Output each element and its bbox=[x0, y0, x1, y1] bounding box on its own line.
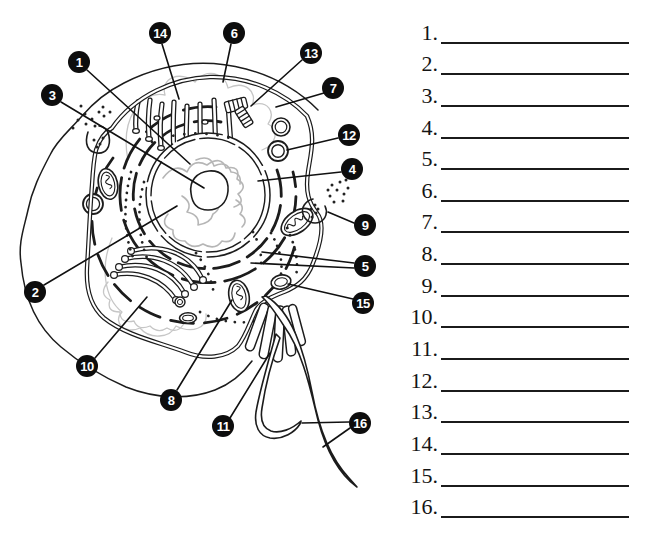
answer-row-16: 16. bbox=[394, 487, 653, 519]
callout-badge-11: 11 bbox=[212, 415, 234, 437]
callout-number: 5 bbox=[362, 260, 369, 273]
callout-badge-8: 8 bbox=[160, 389, 182, 411]
callout-badge-5: 5 bbox=[354, 255, 376, 277]
callout-number: 15 bbox=[356, 297, 369, 310]
answer-blank-line[interactable] bbox=[441, 295, 629, 297]
answer-row-10: 10. bbox=[394, 297, 653, 329]
answer-blank-line[interactable] bbox=[441, 485, 629, 487]
answer-blank-line[interactable] bbox=[441, 200, 629, 202]
callout-badge-1: 1 bbox=[68, 51, 90, 73]
callout-badge-13: 13 bbox=[300, 42, 322, 64]
callout-badge-6: 6 bbox=[223, 22, 245, 44]
answer-row-7: 7. bbox=[394, 202, 653, 234]
answer-row-8: 8. bbox=[394, 233, 653, 265]
answer-number: 10. bbox=[394, 306, 438, 328]
answer-number: 15. bbox=[394, 465, 438, 487]
callout-badge-4: 4 bbox=[341, 158, 363, 180]
callout-badge-3: 3 bbox=[41, 84, 63, 106]
answer-blank-line[interactable] bbox=[441, 421, 629, 423]
callout-number: 3 bbox=[49, 89, 56, 102]
answer-number: 7. bbox=[394, 211, 438, 233]
callout-number: 8 bbox=[168, 394, 175, 407]
answer-row-1: 1. bbox=[394, 12, 653, 44]
answer-blank-line[interactable] bbox=[441, 263, 629, 265]
answer-row-5: 5. bbox=[394, 139, 653, 171]
answer-number: 16. bbox=[394, 496, 438, 518]
answer-blank-line[interactable] bbox=[441, 390, 629, 392]
callout-number: 9 bbox=[362, 219, 369, 232]
answer-number: 8. bbox=[394, 243, 438, 265]
callout-number: 4 bbox=[349, 163, 356, 176]
answer-number: 1. bbox=[394, 22, 438, 44]
answer-number: 14. bbox=[394, 433, 438, 455]
callout-badge-7: 7 bbox=[322, 77, 344, 99]
callout-number: 10 bbox=[80, 360, 93, 373]
callout-badge-16: 16 bbox=[349, 412, 371, 434]
answer-row-13: 13. bbox=[394, 392, 653, 424]
answer-blank-line[interactable] bbox=[441, 358, 629, 360]
answer-blank-line[interactable] bbox=[441, 326, 629, 328]
answer-number: 12. bbox=[394, 370, 438, 392]
callout-number: 6 bbox=[231, 27, 238, 40]
answer-number: 4. bbox=[394, 117, 438, 139]
callout-number: 2 bbox=[32, 286, 39, 299]
answer-blank-line[interactable] bbox=[441, 168, 629, 170]
callout-badge-10: 10 bbox=[76, 355, 98, 377]
answer-blank-line[interactable] bbox=[441, 105, 629, 107]
callout-number: 16 bbox=[353, 417, 366, 430]
callout-number: 1 bbox=[76, 56, 83, 69]
answer-number: 2. bbox=[394, 53, 438, 75]
answer-row-15: 15. bbox=[394, 455, 653, 487]
nucleolus bbox=[191, 171, 228, 210]
callout-number: 7 bbox=[330, 82, 337, 95]
answer-list: 1. 2. 3. 4. 5. 6. 7. 8. 9. 10. 11. 12. 1… bbox=[394, 0, 653, 546]
answer-row-2: 2. bbox=[394, 44, 653, 76]
answer-row-6: 6. bbox=[394, 170, 653, 202]
answer-blank-line[interactable] bbox=[441, 137, 629, 139]
answer-number: 6. bbox=[394, 180, 438, 202]
callout-badge-15: 15 bbox=[352, 292, 374, 314]
callout-badge-9: 9 bbox=[354, 214, 376, 236]
answer-row-4: 4. bbox=[394, 107, 653, 139]
callout-number: 11 bbox=[217, 420, 230, 433]
callout-badge-12: 12 bbox=[338, 124, 360, 146]
answer-blank-line[interactable] bbox=[441, 231, 629, 233]
answer-row-9: 9. bbox=[394, 265, 653, 297]
answer-row-3: 3. bbox=[394, 75, 653, 107]
callout-badge-14: 14 bbox=[149, 22, 171, 44]
answer-blank-line[interactable] bbox=[441, 516, 629, 518]
answer-number: 13. bbox=[394, 401, 438, 423]
answer-number: 3. bbox=[394, 85, 438, 107]
callout-badge-2: 2 bbox=[24, 281, 46, 303]
answer-row-14: 14. bbox=[394, 423, 653, 455]
callout-number: 12 bbox=[342, 129, 355, 142]
answer-row-12: 12. bbox=[394, 360, 653, 392]
callout-number: 14 bbox=[153, 27, 166, 40]
worksheet-page: 1 2 3 4 5 6 7 8 9 10 11 12 13 14 15 16 1… bbox=[0, 0, 653, 546]
answer-number: 9. bbox=[394, 275, 438, 297]
answer-blank-line[interactable] bbox=[441, 453, 629, 455]
callout-number: 13 bbox=[304, 47, 317, 60]
answer-number: 11. bbox=[394, 338, 438, 360]
answer-blank-line[interactable] bbox=[441, 73, 629, 75]
answer-row-11: 11. bbox=[394, 328, 653, 360]
answer-blank-line[interactable] bbox=[441, 42, 629, 44]
answer-number: 5. bbox=[394, 148, 438, 170]
